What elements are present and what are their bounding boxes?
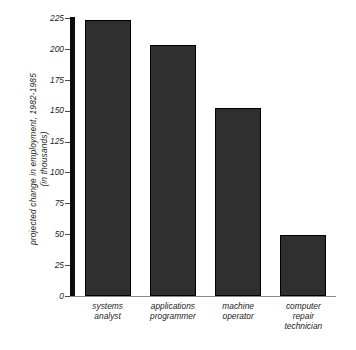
y-axis-title: projected change in employment, 1982-198… [28, 34, 50, 284]
x-axis-label: computerrepairtechnician [271, 301, 336, 332]
x-axis-label-line: programmer [140, 311, 205, 321]
y-tick-label: 100 [38, 168, 64, 176]
y-tick-label: 125 [38, 137, 64, 145]
bar [85, 20, 131, 296]
y-tick-label: 225 [38, 14, 64, 22]
bar [280, 235, 326, 296]
bars-group [75, 18, 336, 296]
bar [215, 108, 261, 296]
y-tick-label: 50 [38, 230, 64, 238]
y-tick-label: 0 [38, 292, 64, 300]
y-tick-label: 150 [38, 106, 64, 114]
x-axis-label-line: applications [140, 301, 205, 311]
y-axis-title-line-1: projected change in employment, 1982-198… [28, 73, 38, 245]
y-tick-label: 175 [38, 76, 64, 84]
bar [150, 45, 196, 296]
bar-chart: projected change in employment, 1982-198… [0, 0, 356, 350]
y-tick-label: 200 [38, 45, 64, 53]
x-axis-label: systemsanalyst [75, 301, 140, 321]
x-axis-labels: systemsanalystapplicationsprogrammermach… [75, 301, 336, 347]
x-axis-label-line: analyst [75, 311, 140, 321]
y-axis-title-line-2: (in thousands) [39, 34, 50, 284]
y-tick-label: 25 [38, 261, 64, 269]
x-axis-label: applicationsprogrammer [140, 301, 205, 321]
x-axis-label: machineoperator [206, 301, 271, 321]
y-tick-label: 75 [38, 199, 64, 207]
x-axis-label-line: operator [206, 311, 271, 321]
x-axis-label-line: machine [206, 301, 271, 311]
x-axis-label-line: computer [271, 301, 336, 311]
x-axis-label-line: technician [271, 321, 336, 331]
x-axis-label-line: systems [75, 301, 140, 311]
x-axis-baseline [70, 296, 336, 297]
x-axis-label-line: repair [271, 311, 336, 321]
